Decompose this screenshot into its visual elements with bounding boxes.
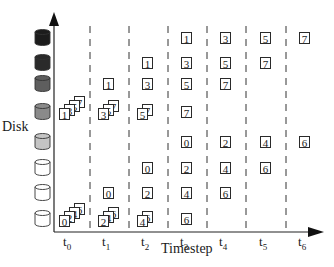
- timestep-tick-label: t1: [102, 234, 110, 252]
- block-box: 5: [220, 57, 231, 69]
- block-box: 3: [142, 78, 153, 90]
- block-box: 2: [142, 187, 153, 199]
- disk-icon: [35, 104, 50, 120]
- block-box: 5: [260, 32, 271, 44]
- block-box: 6: [260, 162, 271, 174]
- block-box: 7: [181, 106, 192, 118]
- x-axis-label: Timestep: [161, 241, 213, 257]
- disk-timestep-diagram: 7531642017530642137502641357024635724657…: [0, 0, 334, 267]
- tick-subscript: 4: [223, 242, 228, 252]
- disk-icon: [35, 55, 50, 71]
- block-box: 2: [220, 136, 231, 148]
- disk-icon: [35, 30, 50, 46]
- block-box: 1: [181, 32, 192, 44]
- block-box: 4: [260, 136, 271, 148]
- disk-icon: [35, 185, 50, 201]
- y-axis-label: Disk: [2, 119, 28, 135]
- tick-subscript: 1: [106, 242, 111, 252]
- timestep-tick-label: t4: [219, 234, 227, 252]
- block-box: 0: [181, 136, 192, 148]
- block-box: 4: [137, 215, 148, 227]
- block-box: 1: [59, 108, 70, 120]
- tick-subscript: 5: [263, 242, 268, 252]
- disk-icon: [35, 76, 50, 92]
- disk-icon: [35, 134, 50, 150]
- timestep-tick-label: t5: [259, 234, 267, 252]
- block-box: 0: [103, 187, 114, 199]
- block-box: 1: [142, 57, 153, 69]
- tick-subscript: 0: [67, 242, 72, 252]
- disk-icons: [35, 30, 50, 227]
- timestep-tick-label: t6: [298, 234, 306, 252]
- block-box: 7: [260, 57, 271, 69]
- disk-icon: [35, 160, 50, 176]
- timestep-tick-label: t0: [63, 234, 71, 252]
- block-box: 3: [220, 32, 231, 44]
- block-box: 2: [98, 215, 109, 227]
- block-box: 4: [181, 187, 192, 199]
- y-axis-arrow-icon: [49, 12, 59, 26]
- block-box: 7: [299, 32, 310, 44]
- tick-subscript: 6: [302, 242, 307, 252]
- tick-subscript: 2: [145, 242, 150, 252]
- block-box: 6: [299, 136, 310, 148]
- block-box: 5: [181, 78, 192, 90]
- block-box: 6: [220, 187, 231, 199]
- block-box: 3: [98, 108, 109, 120]
- block-box: 2: [181, 162, 192, 174]
- block-box: 1: [103, 78, 114, 90]
- timestep-tick-label: t2: [141, 234, 149, 252]
- block-box: 5: [137, 108, 148, 120]
- block-box: 0: [59, 215, 70, 227]
- x-axis-arrow-icon: [308, 227, 324, 237]
- axes: [0, 0, 334, 267]
- disk-icon: [35, 211, 50, 227]
- block-box: 7: [220, 78, 231, 90]
- block-box: 6: [181, 213, 192, 225]
- block-box: 0: [142, 162, 153, 174]
- block-box: 3: [181, 57, 192, 69]
- block-box: 4: [220, 162, 231, 174]
